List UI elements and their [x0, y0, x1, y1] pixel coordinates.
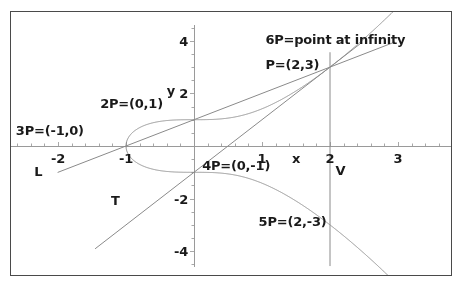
x-axis-label: x — [292, 152, 300, 165]
x-tick-label-neg2: -2 — [51, 152, 65, 165]
label-4P: 4P=(0,-1) — [202, 159, 270, 172]
y-tick-label-neg2: -2 — [174, 193, 188, 206]
y-tick-label-4: 4 — [179, 35, 188, 48]
label-5P: 5P=(2,-3) — [259, 215, 327, 228]
label-line-V: V — [335, 164, 345, 177]
x-tick-label-2: 2 — [326, 152, 335, 165]
y-tick-label-neg4: -4 — [174, 245, 188, 258]
label-line-L: L — [34, 165, 42, 178]
label-line-T: T — [111, 194, 120, 207]
label-2P: 2P=(0,1) — [100, 97, 163, 110]
label-6P: 6P=point at infinity — [265, 33, 405, 46]
x-tick-label-neg1: -1 — [119, 152, 133, 165]
x-tick-label-3: 3 — [394, 152, 403, 165]
label-3P: 3P=(-1,0) — [16, 124, 84, 137]
y-tick-label-2: 2 — [179, 87, 188, 100]
label-P: P=(2,3) — [265, 58, 319, 71]
y-axis-label: y — [167, 84, 175, 97]
